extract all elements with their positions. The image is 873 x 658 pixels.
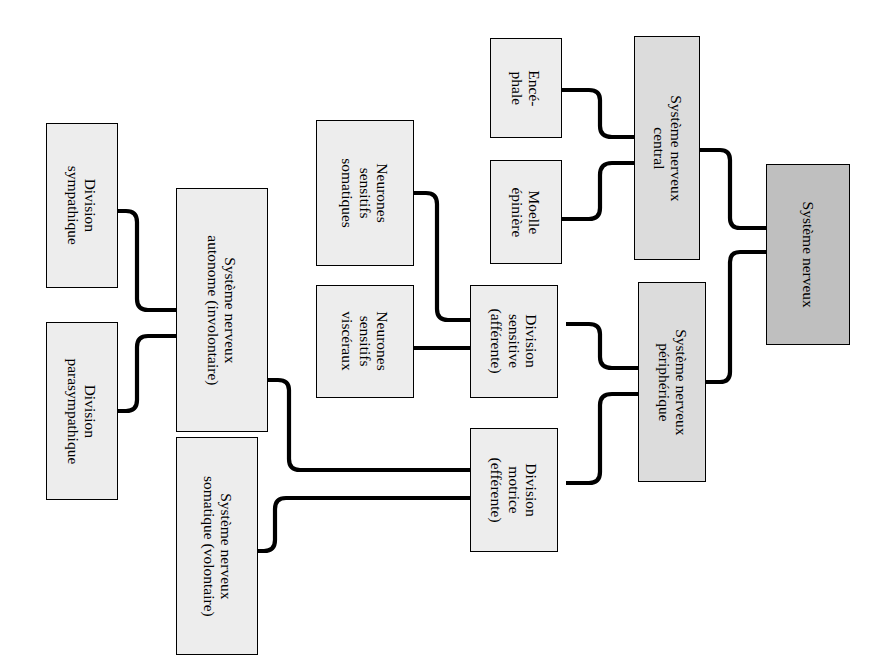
edge-snc-to-encephale	[562, 90, 634, 137]
edge-division-motrice-to-sn-somatique	[258, 498, 470, 551]
node-label: Neurones sensitifs viscéraux	[339, 312, 391, 371]
edge-systeme-nerveux-to-snp	[706, 252, 766, 382]
node-encephale[interactable]: Encé- phale	[490, 38, 562, 138]
node-systeme-nerveux-autonome[interactable]: Système nerveux autonome (involontaire)	[176, 188, 268, 432]
node-label: Division parasympathique	[65, 358, 100, 464]
node-division-sensitive[interactable]: Division sensitive (afférente)	[470, 285, 558, 398]
node-systeme-nerveux-somatique[interactable]: Système nerveux somatique (volontaire)	[176, 437, 258, 655]
connector-layer	[0, 0, 873, 658]
node-label: Moelle épinière	[509, 187, 544, 237]
edge-snp-to-division-motrice	[566, 394, 638, 483]
node-neurones-sensitifs-visceraux[interactable]: Neurones sensitifs viscéraux	[316, 285, 414, 398]
node-label: Système nerveux somatique (volontaire)	[200, 476, 235, 617]
edge-sn-autonome-to-division-parasympathique	[118, 336, 176, 411]
node-label: Encé- phale	[509, 70, 544, 106]
node-systeme-nerveux[interactable]: Système nerveux	[766, 164, 850, 345]
edge-snp-to-division-sensitive	[566, 324, 638, 368]
node-neurones-sensitifs-somatiques[interactable]: Neurones sensitifs somatiques	[316, 120, 414, 266]
node-systeme-nerveux-central[interactable]: Système nerveux central	[634, 36, 700, 260]
node-division-parasympathique[interactable]: Division parasympathique	[46, 322, 118, 500]
edge-systeme-nerveux-to-snc	[700, 150, 766, 228]
node-label: Division sympathique	[65, 166, 100, 245]
node-label: Système nerveux central	[650, 95, 685, 201]
node-label: Système nerveux autonome (involontaire)	[205, 235, 240, 385]
figure-canvas: Figure 44.17 Système nerveux Système ner…	[0, 0, 873, 658]
node-moelle-epiniere[interactable]: Moelle épinière	[490, 160, 562, 264]
node-systeme-nerveux-peripherique[interactable]: Système nerveux périphérique	[638, 282, 706, 482]
node-label: Division sensitive (afférente)	[488, 309, 540, 374]
edge-division-sensitive-to-neurones-somatiques	[414, 193, 470, 320]
node-label: Division motrice (efférente)	[488, 457, 540, 522]
node-label: Neurones sensitifs somatiques	[339, 158, 391, 228]
edge-sn-autonome-to-division-sympathique	[118, 211, 176, 310]
node-label: Système nerveux	[799, 201, 816, 307]
edge-snc-to-moelle	[562, 163, 634, 219]
node-division-motrice[interactable]: Division motrice (efférente)	[470, 428, 558, 552]
node-label: Système nerveux périphérique	[655, 329, 690, 435]
node-division-sympathique[interactable]: Division sympathique	[46, 123, 118, 288]
